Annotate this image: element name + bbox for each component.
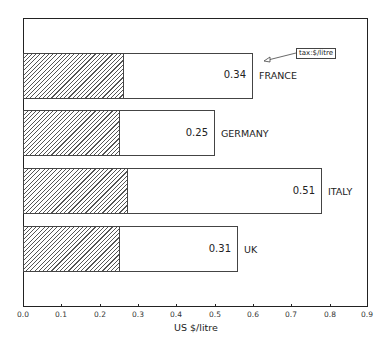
- annotation-arrow-icon: [260, 50, 300, 66]
- tax-segment-france: [24, 54, 124, 98]
- x-axis-title: US $/litre: [174, 322, 218, 333]
- country-label-germany: GERMANY: [221, 128, 269, 139]
- country-label-italy: ITALY: [328, 186, 352, 197]
- value-label-italy: 0.51: [279, 185, 315, 196]
- value-label-france: 0.34: [210, 69, 246, 80]
- x-tick-label: 0.1: [49, 310, 73, 319]
- x-tick: [253, 304, 254, 307]
- x-tick: [138, 304, 139, 307]
- x-tick-label: 0.2: [88, 310, 112, 319]
- x-tick: [61, 304, 62, 307]
- x-tick-label: 0.3: [126, 310, 150, 319]
- x-tick: [330, 304, 331, 307]
- x-tick: [100, 304, 101, 307]
- x-tick: [215, 304, 216, 307]
- tax-segment-italy: [24, 169, 128, 213]
- tax-segment-uk: [24, 227, 120, 271]
- tax-bar-chart: 0.34 FRANCE 0.25 GERMANY 0.51 ITALY 0.31…: [0, 0, 392, 347]
- bar-italy: [23, 168, 322, 214]
- x-tick-label: 0.9: [355, 310, 379, 319]
- x-tick: [23, 304, 24, 307]
- value-label-uk: 0.31: [195, 243, 231, 254]
- x-tick: [291, 304, 292, 307]
- x-tick-label: 0.8: [318, 310, 342, 319]
- tax-segment-germany: [24, 111, 120, 155]
- x-tick: [176, 304, 177, 307]
- x-tick-label: 0.5: [203, 310, 227, 319]
- x-tick-label: 0.7: [279, 310, 303, 319]
- annotation-tax-label: tax:$/litre: [296, 48, 336, 59]
- country-label-uk: UK: [244, 244, 257, 255]
- x-tick-label: 0.6: [241, 310, 265, 319]
- country-label-france: FRANCE: [259, 70, 297, 81]
- x-tick: [367, 304, 368, 307]
- x-tick-label: 0.4: [164, 310, 188, 319]
- value-label-germany: 0.25: [172, 127, 208, 138]
- x-tick-label: 0.0: [11, 310, 35, 319]
